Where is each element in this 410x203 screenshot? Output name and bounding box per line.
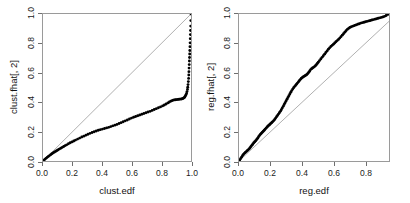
- x-tick-label: 1.0: [186, 169, 198, 178]
- data-points: [239, 14, 389, 161]
- y-tick-label: 0.8: [223, 37, 232, 49]
- reference-line: [239, 21, 389, 161]
- y-tick-mark: [234, 102, 238, 103]
- figure-root: 0.00.20.40.60.81.0 0.00.20.40.60.81.0 cl…: [0, 0, 410, 203]
- x-tick-mark: [270, 162, 271, 166]
- x-axis-title-clust: clust.edf: [99, 186, 134, 196]
- x-tick-label: 0.0: [232, 169, 244, 178]
- y-tick-label: 0.8: [27, 37, 36, 49]
- y-tick-label: 1.0: [27, 7, 36, 19]
- y-axis-title-reg: reg.fhat[, 2]: [206, 63, 216, 111]
- y-tick-label: 0.0: [223, 156, 232, 168]
- plot-canvas-clust: [43, 14, 191, 161]
- y-tick-label: 0.0: [27, 156, 36, 168]
- reference-line: [43, 14, 191, 161]
- x-tick-label: 0.4: [96, 169, 108, 178]
- x-tick-mark: [238, 162, 239, 166]
- panel-clust: 0.00.20.40.60.81.0 0.00.20.40.60.81.0 cl…: [0, 0, 205, 203]
- y-tick-label: 0.2: [27, 126, 36, 138]
- plot-canvas-reg: [239, 14, 389, 161]
- y-tick-label: 0.6: [27, 67, 36, 79]
- y-tick-mark: [38, 43, 42, 44]
- plot-area-clust: [42, 13, 192, 162]
- x-tick-mark: [302, 162, 303, 166]
- x-tick-label: 0.4: [296, 169, 308, 178]
- x-tick-label: 0.8: [156, 169, 168, 178]
- y-tick-mark: [38, 162, 42, 163]
- x-tick-mark: [42, 162, 43, 166]
- x-tick-mark: [72, 162, 73, 166]
- y-tick-mark: [234, 162, 238, 163]
- y-tick-mark: [38, 132, 42, 133]
- x-tick-label: 0.8: [360, 169, 372, 178]
- y-tick-mark: [234, 132, 238, 133]
- plot-area-reg: [238, 13, 390, 162]
- x-tick-mark: [102, 162, 103, 166]
- y-tick-mark: [234, 43, 238, 44]
- y-tick-mark: [38, 73, 42, 74]
- y-tick-mark: [38, 13, 42, 14]
- x-tick-label: 0.6: [126, 169, 138, 178]
- x-tick-label: 0.2: [264, 169, 276, 178]
- x-tick-mark: [334, 162, 335, 166]
- x-axis-title-reg: reg.edf: [299, 186, 329, 196]
- y-axis-title-clust: clust.fhat[, 2]: [9, 60, 19, 114]
- y-tick-label: 0.4: [27, 96, 36, 108]
- x-tick-label: 0.2: [66, 169, 78, 178]
- y-tick-mark: [234, 73, 238, 74]
- x-tick-label: 0.0: [36, 169, 48, 178]
- y-tick-label: 0.2: [223, 126, 232, 138]
- x-tick-mark: [132, 162, 133, 166]
- y-tick-label: 1.0: [223, 7, 232, 19]
- panel-reg: 0.00.20.40.60.8 0.00.20.40.60.81.0 reg.e…: [205, 0, 410, 203]
- y-tick-mark: [38, 102, 42, 103]
- x-tick-mark: [162, 162, 163, 166]
- y-tick-mark: [234, 13, 238, 14]
- y-tick-label: 0.6: [223, 67, 232, 79]
- x-tick-mark: [192, 162, 193, 166]
- x-tick-label: 0.6: [328, 169, 340, 178]
- x-tick-mark: [366, 162, 367, 166]
- y-tick-label: 0.4: [223, 96, 232, 108]
